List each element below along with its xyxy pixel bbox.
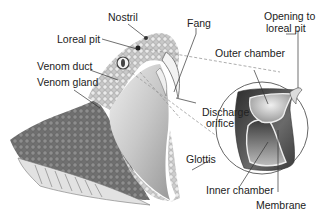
label-outer-chamber: Outer chamber <box>215 48 285 59</box>
label-loreal-pit: Loreal pit <box>57 34 100 45</box>
label-inner-chamber: Inner chamber <box>206 185 274 196</box>
label-venom-duct: Venom duct <box>37 61 92 72</box>
label-venom-gland: Venom gland <box>37 77 98 88</box>
label-membrane: Membrane <box>256 200 306 211</box>
label-opening-line1: Opening to <box>264 11 315 22</box>
diagram: Nostril Loreal pit Venom duct Venom glan… <box>0 0 322 217</box>
label-fang: Fang <box>187 18 211 29</box>
label-glottis: Glottis <box>186 154 216 165</box>
label-nostril: Nostril <box>108 12 138 23</box>
loreal-pit-dot <box>136 46 141 51</box>
label-opening-line2: loreal pit <box>266 23 306 34</box>
label-discharge-orifice-line2: orifice <box>206 118 234 129</box>
